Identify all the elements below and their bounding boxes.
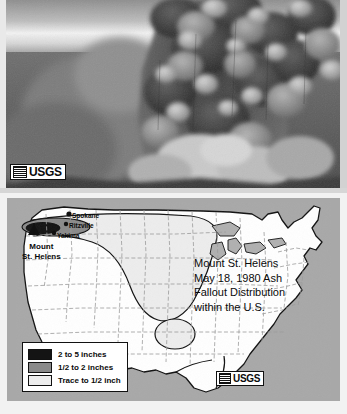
legend-swatch-2-to-5 (28, 349, 52, 360)
usgs-flag-icon (219, 373, 231, 384)
legend-item-2-to-5: 2 to 5 inches (28, 348, 121, 360)
legend-swatch-trace (28, 375, 52, 386)
photo-bottom-border (0, 188, 347, 193)
legend-item-trace: Trace to 1/2 inch (28, 374, 121, 386)
usgs-logo-map: USGS (216, 371, 264, 386)
map-legend: 2 to 5 inches 1/2 to 2 inches Trace to 1… (22, 342, 128, 392)
photo-left-border (0, 0, 6, 193)
legend-label-2-to-5: 2 to 5 inches (58, 350, 106, 359)
ash-fallout-map-panel: Spokane Ritzville Yakima Mount St. Helen… (7, 198, 340, 401)
usgs-wordmark: USGS (29, 166, 62, 178)
usgs-wordmark: USGS (233, 374, 260, 384)
usgs-logo-photo: USGS (10, 164, 66, 180)
ash-fallout-map: Spokane Ritzville Yakima Mount St. Helen… (16, 202, 331, 398)
usgs-flag-icon (13, 166, 27, 178)
legend-label-half-to-2: 1/2 to 2 inches (58, 363, 113, 372)
legend-label-trace: Trace to 1/2 inch (58, 376, 121, 385)
eruption-photograph: USGS (0, 0, 347, 193)
legend-item-half-to-2: 1/2 to 2 inches (28, 361, 121, 373)
legend-swatch-half-to-2 (28, 362, 52, 373)
photo-right-border (340, 0, 347, 193)
page-root: USGS (0, 0, 347, 414)
